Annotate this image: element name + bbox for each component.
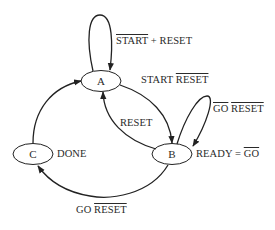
edge-a-self-loop xyxy=(89,15,112,71)
edge-b-to-c xyxy=(38,165,168,197)
edge-c-to-a xyxy=(33,81,81,143)
node-b-output: READY = GO xyxy=(196,148,259,160)
edge-b-self-loop xyxy=(177,96,210,146)
edge-a-to-b xyxy=(120,85,172,143)
node-a-label: A xyxy=(81,75,121,87)
node-b-label: B xyxy=(152,148,192,160)
edge-label-b-to-c: GO RESET xyxy=(76,204,127,216)
edge-label-a-to-b: START RESET xyxy=(141,74,208,86)
node-c-output: DONE xyxy=(57,148,87,160)
edge-label-a-self: START + RESET xyxy=(116,35,192,47)
edge-label-b-self: GO RESET xyxy=(213,103,264,115)
node-c-label: C xyxy=(13,148,53,160)
edge-label-b-to-a: RESET xyxy=(120,117,153,129)
